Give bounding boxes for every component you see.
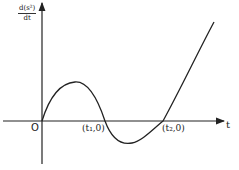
y-axis-label-numerator: d(s²) xyxy=(18,5,36,14)
point-t2-label: (t₂,0) xyxy=(162,124,185,133)
graph-canvas xyxy=(0,0,239,170)
x-axis-label: t xyxy=(226,120,230,130)
derivative-curve xyxy=(42,22,214,143)
origin-label: O xyxy=(31,123,39,133)
point-t1-label: (t₁,0) xyxy=(82,124,105,133)
y-axis-label: d(s²) dt xyxy=(18,5,36,22)
y-axis-label-denominator: dt xyxy=(18,14,36,22)
